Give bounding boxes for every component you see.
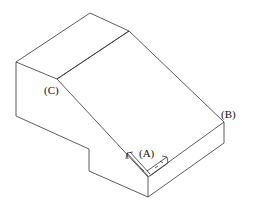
isometric-block-drawing [0, 0, 254, 207]
front-face [148, 122, 224, 197]
label-b: (B) [221, 109, 236, 120]
label-c: (C) [44, 85, 59, 96]
label-a: (A) [139, 148, 154, 159]
left-face [16, 62, 148, 197]
